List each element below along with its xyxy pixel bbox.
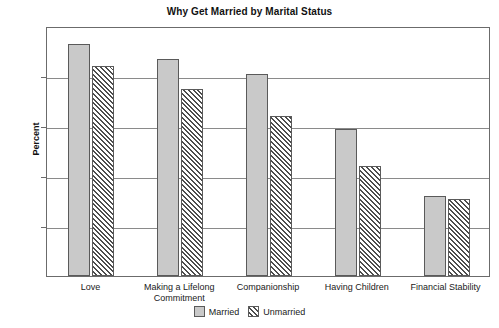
legend-swatch-married-icon <box>194 306 205 317</box>
bar-married <box>424 196 446 276</box>
legend-item-married: Married <box>194 306 240 317</box>
bar-unmarried <box>448 199 470 277</box>
x-axis-category-label: Making a Lifelong Commitment <box>135 282 224 304</box>
legend-swatch-unmarried-icon <box>248 306 259 317</box>
x-axis-category-label: Love <box>46 282 135 293</box>
bar-married <box>246 74 268 277</box>
legend-item-unmarried: Unmarried <box>248 306 305 317</box>
bar-married <box>68 44 90 277</box>
bar-chart: Why Get Married by Marital Status Percen… <box>0 0 499 328</box>
chart-title: Why Get Married by Marital Status <box>0 6 499 17</box>
chart-legend: Married Unmarried <box>0 306 499 317</box>
legend-label-married: Married <box>209 307 240 317</box>
bar-unmarried <box>359 166 381 276</box>
x-axis-category-label: Having Children <box>312 282 401 293</box>
bar-unmarried <box>181 89 203 277</box>
bar-unmarried <box>270 116 292 276</box>
legend-label-unmarried: Unmarried <box>263 307 305 317</box>
x-axis-category-label: Companionship <box>224 282 313 293</box>
plot-area <box>46 27 490 277</box>
x-axis-category-label: Financial Stability <box>401 282 490 293</box>
bar-unmarried <box>92 66 114 276</box>
bar-married <box>157 59 179 277</box>
y-axis-title: Percent <box>31 99 41 179</box>
bar-married <box>335 129 357 277</box>
